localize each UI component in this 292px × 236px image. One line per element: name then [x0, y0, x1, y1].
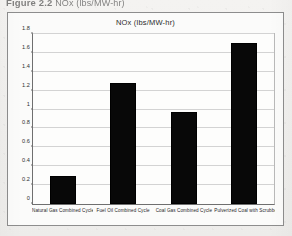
bar	[231, 43, 257, 205]
figure-caption-text: NOx (lbs/MW-hr)	[55, 0, 125, 8]
bar	[50, 176, 76, 204]
bars-group	[33, 34, 274, 204]
y-axis-tick-label: 1.4	[22, 63, 30, 69]
y-axis-tick-label: 0	[27, 195, 30, 201]
y-axis-tick-label: 0.4	[22, 157, 30, 163]
bar	[171, 112, 197, 204]
bar-slot	[214, 34, 274, 204]
y-axis-tick-label: 1.8	[22, 25, 30, 31]
chart-title: NOx (lbs/MW-hr)	[8, 18, 283, 27]
y-axis-tick-label: 1.2	[22, 82, 30, 88]
y-axis-tick-label: 0.6	[22, 138, 30, 144]
y-axis-tick-label: 1.6	[22, 44, 30, 50]
bar-slot	[93, 34, 153, 204]
x-axis-labels: Natural Gas Combined CycleFuel Oil Combi…	[32, 207, 275, 221]
bar-slot	[154, 34, 214, 204]
bar-slot	[33, 34, 93, 204]
x-axis-label: Natural Gas Combined Cycle	[32, 207, 93, 221]
figure-caption: Figure 2.2 NOx (lbs/MW-hr)	[6, 0, 256, 9]
y-axis-tick-label: 0.8	[22, 119, 30, 125]
y-axis-tick-label: 0.2	[22, 176, 30, 182]
chart-frame: NOx (lbs/MW-hr) 00.20.40.60.811.21.41.61…	[7, 12, 284, 226]
x-axis-label: Pulverized Coal with Scrubber	[214, 207, 275, 221]
plot-area: 00.20.40.60.811.21.41.61.8	[32, 33, 275, 205]
figure-caption-number: Figure 2.2	[6, 0, 52, 8]
bar	[110, 83, 136, 204]
y-axis-tick-label: 1	[27, 101, 30, 107]
x-axis-label: Fuel Oil Combined Cycle	[93, 207, 154, 221]
x-axis-label: Coal Gas Combined Cycle	[154, 207, 215, 221]
